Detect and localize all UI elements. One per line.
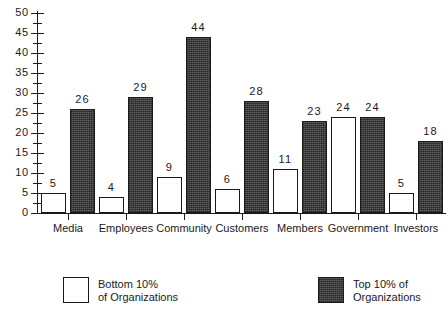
legend-label-bottom-10-line1: Bottom 10% xyxy=(98,278,178,291)
x-tick-media xyxy=(68,213,69,220)
bar-value-top10-government: 24 xyxy=(360,102,385,113)
bar-value-bottom10-media: 5 xyxy=(41,178,66,189)
y-tick-label-0: 0 xyxy=(1,207,29,218)
x-tick-customers xyxy=(242,213,243,220)
bar-value-top10-members: 23 xyxy=(302,106,327,117)
y-tick-label-wrap-20: 20 xyxy=(0,127,29,138)
y-tick-label-40: 40 xyxy=(1,47,29,58)
bar-value-top10-media: 26 xyxy=(70,94,95,105)
bar-chart: 05101520253035404550 526Media429Employee… xyxy=(0,0,448,323)
legend-item-bottom-10: Bottom 10% of Organizations xyxy=(63,277,178,304)
x-tick-members xyxy=(300,213,301,220)
y-tick-label-wrap-15: 15 xyxy=(0,147,29,158)
x-tick-employees xyxy=(126,213,127,220)
bar-value-top10-customers: 28 xyxy=(244,86,269,97)
y-tick-label-5: 5 xyxy=(1,187,29,198)
x-tick-government xyxy=(358,213,359,220)
y-tick-label-35: 35 xyxy=(1,67,29,78)
y-tick-label-20: 20 xyxy=(1,127,29,138)
legend-swatch-dark xyxy=(318,277,344,303)
y-tick-label-wrap-5: 5 xyxy=(0,187,29,198)
legend-label-bottom-10-line2: of Organizations xyxy=(98,291,178,304)
y-tick-0 xyxy=(31,213,44,214)
y-tick-label-wrap-45: 45 xyxy=(0,27,29,38)
y-tick-label-wrap-40: 40 xyxy=(0,47,29,58)
x-tick-investors xyxy=(416,213,417,220)
bar-value-top10-employees: 29 xyxy=(128,82,153,93)
bar-value-bottom10-investors: 5 xyxy=(389,178,414,189)
legend-label-top-10: Top 10% of Organizations xyxy=(353,277,421,304)
bar-top10-community xyxy=(186,37,211,213)
bar-bottom10-government xyxy=(331,117,356,213)
bar-value-top10-investors: 18 xyxy=(418,126,443,137)
y-tick-label-wrap-35: 35 xyxy=(0,67,29,78)
y-tick-label-10: 10 xyxy=(1,167,29,178)
bar-bottom10-media xyxy=(41,193,66,213)
bar-value-bottom10-customers: 6 xyxy=(215,174,240,185)
x-category-label-investors: Investors xyxy=(371,222,448,234)
bar-value-bottom10-community: 9 xyxy=(157,162,182,173)
legend-label-top-10-line2: Organizations xyxy=(353,291,421,304)
y-tick-label-wrap-30: 30 xyxy=(0,87,29,98)
bar-top10-government xyxy=(360,117,385,213)
y-tick-label-wrap-25: 25 xyxy=(0,107,29,118)
y-tick-label-25: 25 xyxy=(1,107,29,118)
y-tick-label-wrap-50: 50 xyxy=(0,7,29,18)
legend-label-bottom-10: Bottom 10% of Organizations xyxy=(98,277,178,304)
bar-bottom10-investors xyxy=(389,193,414,213)
x-tick-community xyxy=(184,213,185,220)
bar-top10-investors xyxy=(418,141,443,213)
bar-value-bottom10-members: 11 xyxy=(273,154,298,165)
bar-value-bottom10-employees: 4 xyxy=(99,182,124,193)
bar-top10-customers xyxy=(244,101,269,213)
bar-bottom10-members xyxy=(273,169,298,213)
y-tick-label-15: 15 xyxy=(1,147,29,158)
bar-value-top10-community: 44 xyxy=(186,22,211,33)
bar-top10-members xyxy=(302,121,327,213)
y-tick-label-wrap-10: 10 xyxy=(0,167,29,178)
bar-top10-employees xyxy=(128,97,153,213)
legend-label-top-10-line1: Top 10% of xyxy=(353,278,421,291)
bar-value-bottom10-government: 24 xyxy=(331,102,356,113)
y-tick-label-45: 45 xyxy=(1,27,29,38)
y-tick-label-wrap-0: 0 xyxy=(0,207,29,218)
legend-swatch-light xyxy=(63,277,89,303)
legend-item-top-10: Top 10% of Organizations xyxy=(318,277,421,304)
bar-top10-media xyxy=(70,109,95,213)
bar-bottom10-customers xyxy=(215,189,240,213)
y-tick-label-30: 30 xyxy=(1,87,29,98)
y-tick-label-50: 50 xyxy=(1,7,29,18)
bar-bottom10-community xyxy=(157,177,182,213)
bar-bottom10-employees xyxy=(99,197,124,213)
